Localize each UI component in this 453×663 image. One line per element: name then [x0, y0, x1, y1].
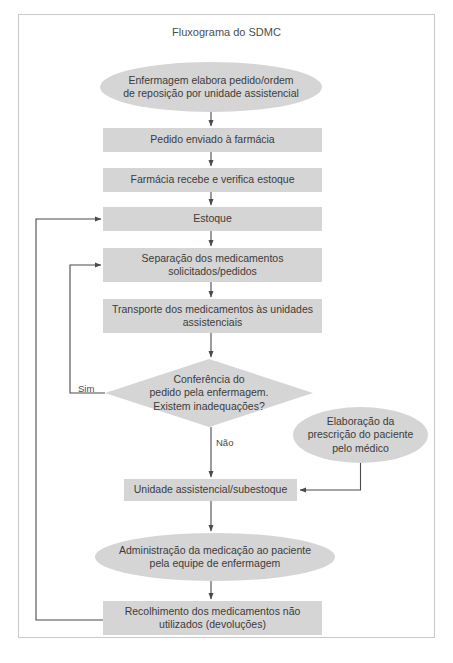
edge-label-sim: Sim	[78, 383, 94, 394]
node-estoque-shape	[103, 207, 322, 231]
node-separacao-shape	[103, 248, 322, 282]
flowchart-canvas	[0, 0, 453, 663]
edge-conferencia-to-separacao-loop	[70, 265, 105, 393]
flowchart-page: Fluxograma do SDMC	[0, 0, 453, 663]
node-enfermagem-shape	[100, 62, 322, 112]
edge-label-nao: Não	[216, 437, 233, 448]
node-farmacia-recebe-shape	[103, 168, 322, 192]
node-recolhimento-shape	[103, 601, 322, 635]
node-conferencia-shape	[105, 359, 313, 427]
node-pedido-enviado-shape	[103, 128, 322, 152]
edge-prescricao-to-unidade-elbow	[300, 463, 361, 490]
node-unidade-subestoque-shape	[124, 479, 297, 501]
node-transporte-shape	[103, 299, 322, 333]
node-prescricao-shape	[293, 407, 428, 463]
node-administracao-shape	[95, 533, 335, 581]
